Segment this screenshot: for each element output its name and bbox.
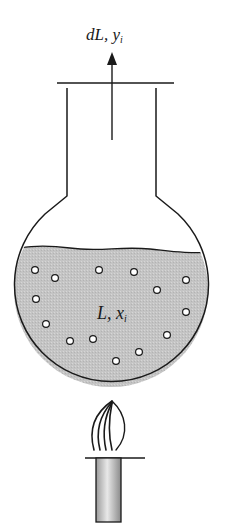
bubble — [96, 267, 103, 274]
bubble — [183, 277, 190, 284]
liquid-label: L, xi — [97, 304, 127, 324]
bubble — [183, 309, 190, 316]
bubble — [154, 287, 161, 294]
bubble — [113, 358, 120, 365]
bubble — [90, 336, 97, 343]
batch-distillation-diagram: dL, yi L, xi — [0, 0, 225, 532]
vapor-arrow — [107, 52, 117, 140]
bubble — [33, 296, 40, 303]
bubble — [131, 269, 138, 276]
vapor-label: dL, yi — [86, 26, 123, 45]
flame — [92, 401, 125, 450]
bubble — [67, 338, 74, 345]
bubble — [52, 275, 59, 282]
bubble — [136, 349, 143, 356]
bubble — [164, 332, 171, 339]
bubble — [32, 267, 39, 274]
diagram-canvas — [0, 0, 225, 532]
bubble — [43, 321, 50, 328]
burner — [85, 458, 145, 522]
